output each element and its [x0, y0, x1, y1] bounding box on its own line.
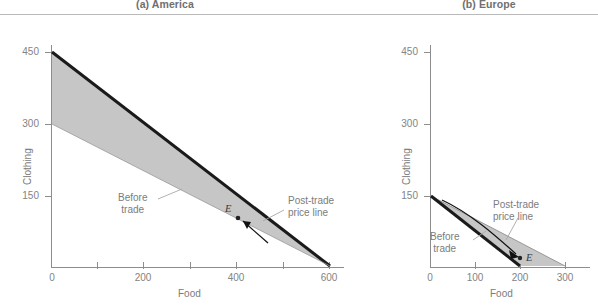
plot-area-america	[0, 0, 380, 307]
equilibrium-point-marker-europe	[518, 256, 522, 260]
annotation-post-trade-line1-america: Post-trade	[288, 195, 334, 207]
annotation-before-trade-europe: Before trade	[430, 231, 459, 254]
plot-area-europe	[380, 0, 598, 307]
panel-america: (a) America 450 300 150 0 200 400 600 Cl…	[0, 0, 380, 307]
annotation-post-trade-europe: Post-trade price line	[493, 199, 539, 222]
annotation-before-trade-line2-america: trade	[118, 204, 147, 216]
equilibrium-point-label-america: E	[225, 203, 231, 214]
annotation-post-trade-line1-europe: Post-trade	[493, 199, 539, 211]
annotation-before-trade-line1-america: Before	[118, 192, 147, 204]
annotation-post-trade-america: Post-trade price line	[288, 195, 334, 218]
annotation-before-trade-line1-europe: Before	[430, 231, 459, 243]
annotation-post-trade-line2-america: price line	[288, 207, 334, 219]
leader-line-before-trade-america	[158, 189, 182, 199]
annotation-before-trade-america: Before trade	[118, 192, 147, 215]
annotation-before-trade-line2-europe: trade	[430, 243, 459, 255]
figure-container: (a) America 450 300 150 0 200 400 600 Cl…	[0, 0, 598, 307]
equilibrium-point-label-europe: E	[526, 252, 532, 263]
post-trade-price-line-america	[52, 52, 330, 266]
panel-europe: (b) Europe 450 300 150 0 100 200 300 Clo…	[380, 0, 598, 307]
equilibrium-point-marker-america	[236, 216, 241, 221]
annotation-post-trade-line2-europe: price line	[493, 211, 539, 223]
